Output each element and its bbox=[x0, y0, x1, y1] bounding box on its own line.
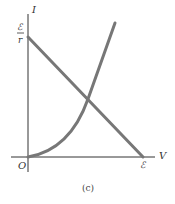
figure-caption: (c) bbox=[82, 184, 94, 193]
load-line bbox=[28, 37, 143, 157]
y-intercept-numerator: ℰ bbox=[17, 23, 22, 32]
device-curve bbox=[28, 23, 115, 157]
x-intercept-label: ℰ bbox=[140, 161, 145, 170]
origin-label: O bbox=[18, 161, 26, 171]
x-axis-label: V bbox=[159, 151, 166, 161]
y-intercept-denominator: r bbox=[18, 36, 22, 45]
y-axis-label: I bbox=[32, 5, 36, 15]
iv-diagram bbox=[0, 0, 175, 204]
